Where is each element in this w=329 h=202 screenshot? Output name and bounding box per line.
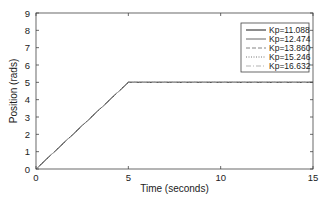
series-line [36, 82, 313, 169]
x-tick-label: 5 [126, 172, 131, 183]
y-tick-label: 9 [25, 8, 30, 19]
x-tick-label: 15 [308, 172, 319, 183]
y-tick-label: 8 [25, 25, 30, 36]
y-tick-label: 5 [25, 77, 30, 88]
y-tick-label: 3 [25, 112, 30, 123]
series-line [36, 82, 313, 169]
y-tick-label: 4 [25, 94, 30, 105]
y-tick-label: 0 [25, 164, 30, 175]
x-tick-label: 0 [33, 172, 38, 183]
line-chart: 0510150123456789 Time (seconds) Position… [0, 0, 329, 202]
legend: Kp=11.088Kp=12.474Kp=13.860Kp=15.246Kp=1… [241, 23, 311, 72]
series-layer [36, 82, 313, 169]
x-axis-title: Time (seconds) [140, 183, 209, 194]
y-tick-label: 6 [25, 60, 30, 71]
y-axis-title: Position (rads) [8, 59, 19, 123]
series-line [36, 82, 313, 169]
x-tick-label: 10 [215, 172, 226, 183]
series-line [36, 82, 313, 169]
y-tick-label: 7 [25, 42, 30, 53]
y-tick-label: 1 [25, 146, 30, 157]
series-line [36, 82, 313, 169]
legend-label: Kp=16.632 [269, 61, 311, 71]
y-tick-label: 2 [25, 129, 30, 140]
